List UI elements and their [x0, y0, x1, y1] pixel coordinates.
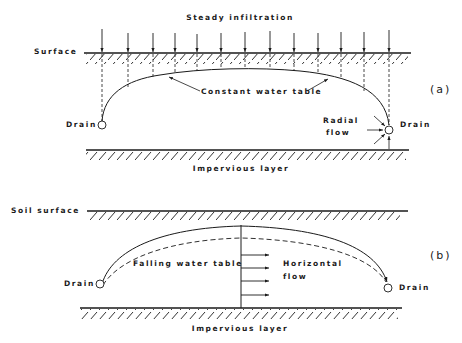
impervious-hatching-a	[86, 151, 406, 161]
drain-left-icon-b	[96, 280, 104, 288]
panel-b-tag: (b)	[430, 249, 452, 262]
panel-b: Soil surface Falling water table Horizon…	[11, 206, 452, 333]
panel-a: Steady infiltration Surface	[34, 13, 451, 173]
drain-right-label-b: Drain	[399, 283, 430, 292]
surface-label: Surface	[34, 47, 78, 56]
horizontal-flow-arrows	[241, 255, 269, 295]
drain-right-icon-b	[384, 284, 392, 292]
soil-surface-hatching	[88, 212, 400, 222]
drain-right-label: Drain	[400, 120, 431, 129]
radial-flow-label-line2: flow	[326, 128, 350, 137]
radial-flow-label-line1: Radial	[323, 116, 359, 125]
panel-a-tag: (a)	[430, 83, 451, 96]
constant-water-table-label: Constant water table	[201, 87, 322, 96]
drain-right-icon	[385, 126, 393, 134]
impervious-hatching-b	[80, 309, 398, 319]
steady-infiltration-label: Steady infiltration	[186, 13, 294, 22]
horizontal-flow-label-line2: flow	[283, 272, 307, 281]
horizontal-flow-label-line1: Horizontal	[283, 259, 343, 268]
drainage-diagram: Steady infiltration Surface	[0, 0, 462, 343]
impervious-layer-label-b: Impervious layer	[192, 324, 288, 333]
soil-surface-label: Soil surface	[11, 206, 80, 215]
drain-left-label: Drain	[66, 120, 97, 129]
water-table-pointer-left	[169, 77, 200, 91]
drain-left-label-b: Drain	[64, 279, 95, 288]
falling-water-table-label: Falling water table	[133, 259, 243, 268]
infiltration-arrows	[102, 29, 389, 52]
drain-left-icon	[98, 121, 106, 129]
impervious-layer-label-a: Impervious layer	[193, 164, 289, 173]
surface-hatching	[86, 54, 408, 64]
